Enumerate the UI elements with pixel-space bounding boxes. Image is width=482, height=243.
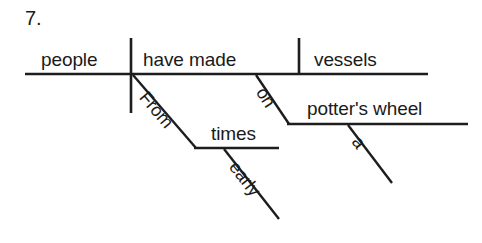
diagram-lines — [0, 0, 482, 243]
sentence-diagram-figure: 7. people have made vessels From times e… — [0, 0, 482, 243]
label-object-potters-wheel: potter's wheel — [307, 99, 422, 118]
label-verb-have-made: have made — [143, 50, 236, 69]
label-subject-people: people — [41, 50, 97, 69]
label-object-times: times — [211, 124, 256, 143]
article-a-slant — [348, 125, 392, 183]
label-object-vessels: vessels — [314, 50, 377, 69]
